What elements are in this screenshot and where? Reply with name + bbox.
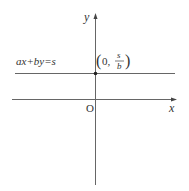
point-label-open: ( (96, 52, 101, 70)
coordinate-diagram: y x O ax+by=s ( 0, s b ) (0, 0, 189, 191)
point-label-denominator: b (117, 61, 122, 71)
point-label-close: ) (125, 52, 130, 70)
point-label-zero: 0, (102, 55, 111, 67)
line-equation-label: ax+by=s (16, 55, 56, 67)
y-axis-label: y (83, 10, 90, 24)
y-intercept-point (94, 72, 98, 76)
x-axis-label: x (168, 101, 175, 115)
y-axis-arrow-icon (94, 13, 98, 19)
origin-label: O (86, 102, 94, 114)
point-label-numerator: s (117, 50, 121, 60)
